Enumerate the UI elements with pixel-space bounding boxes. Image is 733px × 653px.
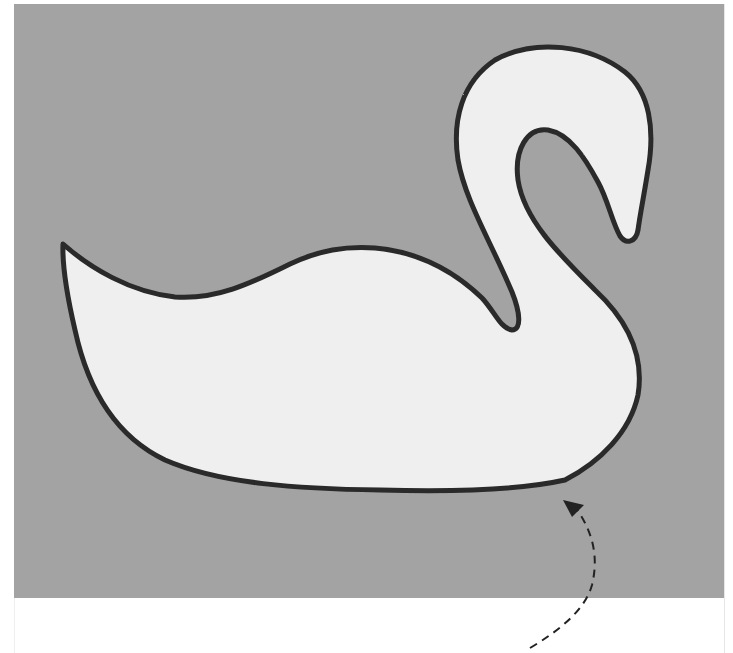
swan-illustration <box>0 0 733 653</box>
dashed-arrow-line <box>530 508 595 648</box>
arrowhead-icon <box>563 500 584 517</box>
image-canvas <box>0 0 733 653</box>
swan-shape <box>63 47 651 491</box>
annotation-arrow <box>530 500 595 648</box>
